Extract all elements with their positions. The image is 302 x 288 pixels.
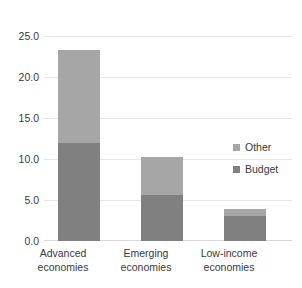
legend-swatch-icon-budget <box>233 166 240 173</box>
legend-item-budget[interactable]: Budget <box>233 158 297 180</box>
legend: Other Budget <box>233 136 297 180</box>
bar-segment-other <box>141 157 183 195</box>
y-axis-tick-5: 25.0 <box>0 30 39 42</box>
bar-segment-budget <box>224 216 266 241</box>
legend-swatch-icon-other <box>233 144 240 151</box>
x-axis-label-emerging-economies: Emerging economies <box>106 246 186 274</box>
bar-low-income-economies <box>224 209 266 241</box>
legend-label-other: Other <box>245 141 271 153</box>
y-axis-tick-1: 5.0 <box>0 194 39 206</box>
legend-label-budget: Budget <box>245 163 278 175</box>
bar-advanced-economies <box>58 50 100 241</box>
x-axis-label-advanced-economies: Advanced economies <box>23 246 103 274</box>
legend-item-other[interactable]: Other <box>233 136 297 158</box>
bar-emerging-economies <box>141 157 183 241</box>
y-axis-tick-4: 20.0 <box>0 71 39 83</box>
x-axis-label-low-income-economies: Low-income economies <box>189 246 269 274</box>
stacked-bar-chart: 0.0 5.0 10.0 15.0 20.0 25.0 Advanced ec <box>0 0 302 288</box>
bar-segment-other <box>58 50 100 143</box>
bar-segment-other <box>224 209 266 216</box>
y-axis-tick-2: 10.0 <box>0 153 39 165</box>
bar-segment-budget <box>58 143 100 241</box>
gridline-25 <box>44 36 292 37</box>
bar-segment-budget <box>141 195 183 241</box>
y-axis-tick-3: 15.0 <box>0 112 39 124</box>
